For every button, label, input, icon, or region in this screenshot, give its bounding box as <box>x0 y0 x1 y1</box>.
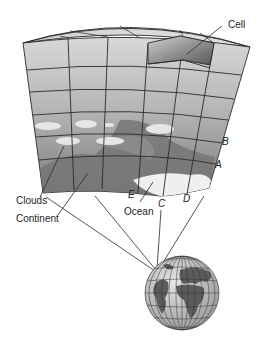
globe-icon <box>145 256 219 330</box>
label-e: E <box>128 189 135 200</box>
label-b: B <box>222 136 229 147</box>
label-a: A <box>214 159 222 170</box>
climate-model-diagram: Cell B A Clouds Continent E Ocean C D <box>0 0 263 345</box>
grid-front-face <box>23 36 250 196</box>
label-continent: Continent <box>16 213 59 224</box>
label-ocean: Ocean <box>124 206 153 217</box>
label-cell: Cell <box>228 19 245 30</box>
label-d: D <box>183 193 190 204</box>
label-c: C <box>158 198 166 209</box>
label-clouds: Clouds <box>16 195 47 206</box>
